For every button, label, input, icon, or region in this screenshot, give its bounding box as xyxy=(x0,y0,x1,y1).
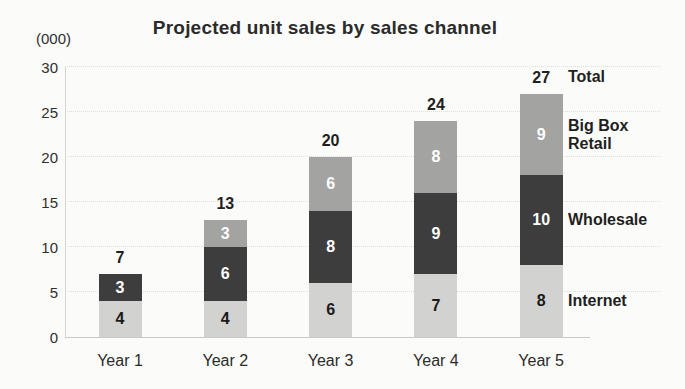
y-tick-label: 5 xyxy=(16,284,58,301)
stacked-bar-chart: (000) Projected unit sales by sales chan… xyxy=(0,0,685,389)
gridline-15 xyxy=(65,201,660,202)
x-axis-line xyxy=(65,337,590,338)
bar-segment-internet-year-5: 8 xyxy=(520,265,563,337)
x-tick-label-year-1: Year 1 xyxy=(75,352,165,370)
x-tick-label-year-4: Year 4 xyxy=(391,352,481,370)
x-tick-label-year-3: Year 3 xyxy=(286,352,376,370)
y-tick-label: 10 xyxy=(16,239,58,256)
chart-title: Projected unit sales by sales channel xyxy=(65,17,585,39)
bar-segment-big-box-retail-year-5: 9 xyxy=(520,94,563,175)
x-tick-label-year-2: Year 2 xyxy=(180,352,270,370)
bar-segment-wholesale-year-5: 10 xyxy=(520,175,563,265)
total-label-year-3: 20 xyxy=(301,131,361,151)
gridline-30 xyxy=(65,66,660,67)
y-tick-label: 25 xyxy=(16,104,58,121)
bar-segment-internet-year-3: 6 xyxy=(309,283,352,337)
y-tick-label: 20 xyxy=(16,149,58,166)
bar-segment-big-box-retail-year-3: 6 xyxy=(309,157,352,211)
legend-series-label-internet: Internet xyxy=(568,292,668,310)
gridline-10 xyxy=(65,246,660,247)
total-label-year-5: 27 xyxy=(511,68,571,88)
y-tick-label: 0 xyxy=(16,329,58,346)
total-label-year-1: 7 xyxy=(90,248,150,268)
legend-series-label-big-box-retail: Big Box Retail xyxy=(568,117,668,153)
bar-segment-wholesale-year-2: 6 xyxy=(204,247,247,301)
legend-total-label: Total xyxy=(568,68,668,86)
y-axis-line xyxy=(65,67,66,338)
gridline-20 xyxy=(65,156,660,157)
total-label-year-2: 13 xyxy=(195,194,255,214)
legend-series-label-wholesale: Wholesale xyxy=(568,211,668,229)
bar-segment-wholesale-year-4: 9 xyxy=(414,193,457,274)
bar-segment-internet-year-1: 4 xyxy=(99,301,142,337)
y-tick-label: 30 xyxy=(16,59,58,76)
bar-segment-big-box-retail-year-2: 3 xyxy=(204,220,247,247)
gridline-25 xyxy=(65,111,660,112)
bar-segment-wholesale-year-3: 8 xyxy=(309,211,352,283)
bar-segment-big-box-retail-year-4: 8 xyxy=(414,121,457,193)
y-tick-label: 15 xyxy=(16,194,58,211)
bar-segment-internet-year-4: 7 xyxy=(414,274,457,337)
bar-segment-internet-year-2: 4 xyxy=(204,301,247,337)
bar-segment-wholesale-year-1: 3 xyxy=(99,274,142,301)
total-label-year-4: 24 xyxy=(406,95,466,115)
x-tick-label-year-5: Year 5 xyxy=(496,352,586,370)
